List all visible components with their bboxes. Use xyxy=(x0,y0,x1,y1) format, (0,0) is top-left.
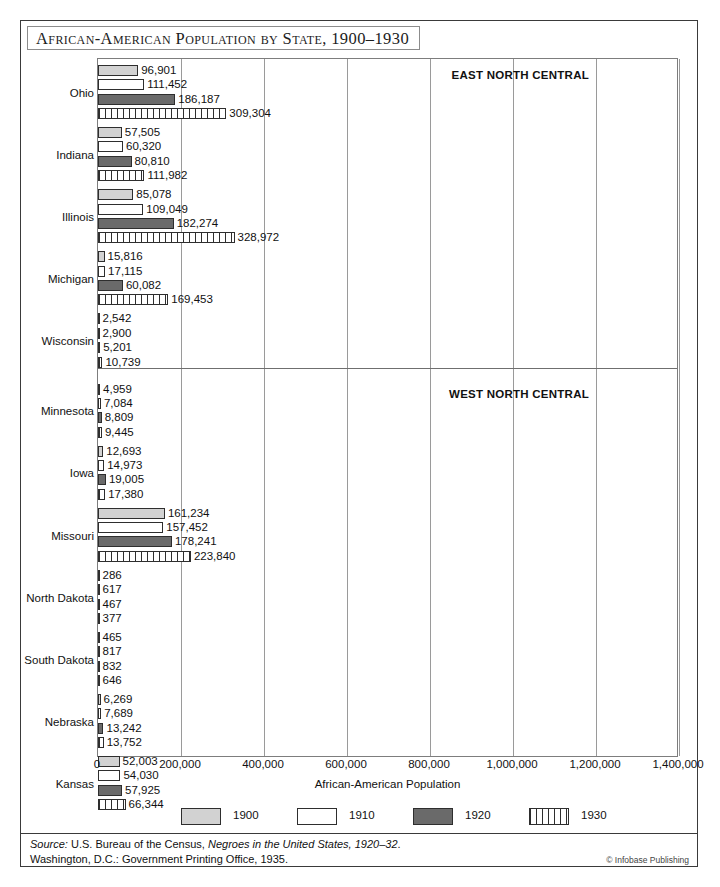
bar-michigan-1920[interactable] xyxy=(98,280,123,291)
bar-illinois-1930[interactable] xyxy=(98,232,235,243)
gridline-1400000 xyxy=(679,59,680,756)
legend-swatch-1900 xyxy=(181,808,221,825)
x-tick-1000000: 1,000,000 xyxy=(486,758,537,770)
bar-illinois-1900[interactable] xyxy=(98,189,133,200)
bar-north-dakota-1920[interactable] xyxy=(98,599,100,610)
page-title: African-American Population by State, 19… xyxy=(36,29,409,49)
state-label-ohio: Ohio xyxy=(70,86,94,100)
x-tick-600000: 600,000 xyxy=(325,758,367,770)
bar-indiana-1930[interactable] xyxy=(98,170,144,181)
bar-missouri-1920[interactable] xyxy=(98,536,172,547)
bar-wisconsin-1900[interactable] xyxy=(98,313,100,324)
bar-nebraska-1900[interactable] xyxy=(98,694,101,705)
bar-minnesota-1900[interactable] xyxy=(98,384,100,395)
bar-nebraska-1930[interactable] xyxy=(98,737,104,748)
bar-nebraska-1910[interactable] xyxy=(98,708,101,719)
state-label-iowa: Iowa xyxy=(70,466,94,480)
bar-illinois-1920[interactable] xyxy=(98,218,174,229)
bar-missouri-1930[interactable] xyxy=(98,551,191,562)
legend-swatch-1910 xyxy=(297,808,337,825)
bar-value-label: 66,344 xyxy=(129,796,164,812)
bar-minnesota-1930[interactable] xyxy=(98,427,102,438)
x-axis-ticks: 0200,000400,000600,000800,0001,000,0001,… xyxy=(97,758,678,776)
bar-value-label: 328,972 xyxy=(238,229,280,245)
bar-value-label: 60,082 xyxy=(126,277,161,293)
bar-south-dakota-1900[interactable] xyxy=(98,632,100,643)
x-tick-1200000: 1,200,000 xyxy=(569,758,620,770)
bar-value-label: 169,453 xyxy=(171,291,213,307)
bar-group: 85,078109,049182,274328,972 xyxy=(98,189,677,247)
bar-wisconsin-1930[interactable] xyxy=(98,357,102,368)
bar-value-label: 10,739 xyxy=(105,354,140,370)
bar-iowa-1910[interactable] xyxy=(98,460,104,471)
bar-north-dakota-1910[interactable] xyxy=(98,584,100,595)
bar-group: 465817832646 xyxy=(98,632,677,690)
source-body: U.S. Bureau of the Census, xyxy=(68,838,208,850)
source-publication-title: Negroes in the United States, 1920–32 xyxy=(208,838,398,850)
bar-value-label: 182,274 xyxy=(177,215,219,231)
bar-group: 286617467377 xyxy=(98,570,677,628)
x-tick-400000: 400,000 xyxy=(242,758,284,770)
x-tick-800000: 800,000 xyxy=(408,758,450,770)
source-divider xyxy=(21,833,697,834)
legend-label-1930: 1930 xyxy=(581,809,607,821)
bar-group: 96,901111,452186,187309,304 xyxy=(98,65,677,123)
legend-swatch-1920 xyxy=(413,808,453,825)
bar-value-label: 111,982 xyxy=(147,167,187,183)
bar-iowa-1930[interactable] xyxy=(98,489,105,500)
chart-title-box: African-American Population by State, 19… xyxy=(27,26,420,50)
bar-missouri-1910[interactable] xyxy=(98,522,163,533)
state-label-michigan: Michigan xyxy=(48,272,94,286)
state-label-illinois: Illinois xyxy=(62,210,94,224)
legend-label-1920: 1920 xyxy=(465,809,491,821)
source-label: Source: xyxy=(30,838,68,850)
region-label-west-north-central: WEST NORTH CENTRAL xyxy=(449,388,589,400)
source-note: Source: U.S. Bureau of the Census, Negro… xyxy=(30,837,401,866)
legend-swatch-1930 xyxy=(529,808,569,825)
bar-south-dakota-1930[interactable] xyxy=(98,675,100,686)
state-label-missouri: Missouri xyxy=(51,529,94,543)
bar-missouri-1900[interactable] xyxy=(98,508,165,519)
state-label-minnesota: Minnesota xyxy=(41,404,94,418)
bar-minnesota-1920[interactable] xyxy=(98,412,102,423)
x-tick-0: 0 xyxy=(94,758,100,770)
bar-nebraska-1920[interactable] xyxy=(98,723,103,734)
bar-wisconsin-1920[interactable] xyxy=(98,342,100,353)
state-label-nebraska: Nebraska xyxy=(45,715,94,729)
bar-michigan-1930[interactable] xyxy=(98,294,168,305)
legend-label-1910: 1910 xyxy=(349,809,375,821)
bar-michigan-1910[interactable] xyxy=(98,266,105,277)
bar-value-label: 646 xyxy=(103,672,122,688)
bar-ohio-1910[interactable] xyxy=(98,79,144,90)
legend-label-1900: 1900 xyxy=(233,809,259,821)
bar-ohio-1900[interactable] xyxy=(98,65,138,76)
bar-indiana-1920[interactable] xyxy=(98,156,132,167)
x-axis-title: African-American Population xyxy=(97,778,678,790)
bar-indiana-1900[interactable] xyxy=(98,127,122,138)
bar-illinois-1910[interactable] xyxy=(98,204,143,215)
bar-iowa-1900[interactable] xyxy=(98,446,103,457)
bar-ohio-1930[interactable] xyxy=(98,108,226,119)
bar-ohio-1920[interactable] xyxy=(98,94,175,105)
bar-north-dakota-1900[interactable] xyxy=(98,570,100,581)
bar-south-dakota-1920[interactable] xyxy=(98,661,100,672)
bar-wisconsin-1910[interactable] xyxy=(98,328,100,339)
source-line-2: Washington, D.C.: Government Printing Of… xyxy=(30,852,401,867)
bar-michigan-1900[interactable] xyxy=(98,251,105,262)
bar-kansas-1930[interactable] xyxy=(98,799,126,810)
bar-south-dakota-1910[interactable] xyxy=(98,646,100,657)
chart-figure: African-American Population by State, 19… xyxy=(20,20,698,867)
bar-minnesota-1910[interactable] xyxy=(98,398,101,409)
bar-iowa-1920[interactable] xyxy=(98,474,106,485)
bar-north-dakota-1930[interactable] xyxy=(98,613,100,624)
source-line-1: Source: U.S. Bureau of the Census, Negro… xyxy=(30,837,401,852)
bar-value-label: 17,380 xyxy=(108,486,143,502)
state-label-north-dakota: North Dakota xyxy=(26,591,94,605)
bar-group: 12,69314,97319,00517,380 xyxy=(98,446,677,504)
bar-indiana-1910[interactable] xyxy=(98,141,123,152)
bar-group: 4,9597,0848,8099,445 xyxy=(98,384,677,442)
chart-legend: 1900191019201930 xyxy=(181,807,641,829)
publisher-credit: © Infobase Publishing xyxy=(606,855,689,865)
region-label-east-north-central: EAST NORTH CENTRAL xyxy=(452,69,589,81)
state-label-kansas: Kansas xyxy=(56,777,94,791)
